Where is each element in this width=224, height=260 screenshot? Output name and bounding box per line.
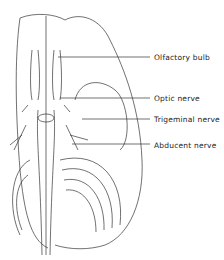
brain-illustration: [0, 0, 224, 260]
brain-diagram: Olfactory bulb Optic nerve Trigeminal ne…: [0, 0, 224, 260]
label-optic-nerve: Optic nerve: [154, 94, 200, 103]
label-olfactory-bulb: Olfactory bulb: [154, 53, 210, 62]
label-abducent-nerve: Abducent nerve: [154, 141, 217, 150]
label-trigeminal-nerve: Trigeminal nerve: [154, 115, 220, 124]
